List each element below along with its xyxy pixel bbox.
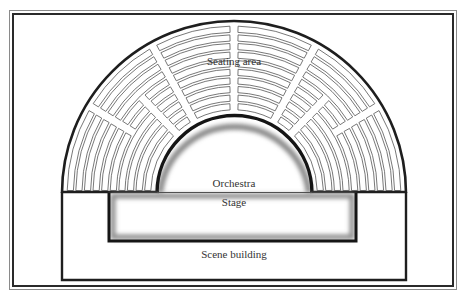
scene-building-label: Scene building [201,248,267,260]
seating-area-label: Seating area [207,55,261,67]
stage-label: Stage [222,196,246,208]
orchestra-label: Orchestra [213,177,256,189]
seating-rows [67,26,401,190]
